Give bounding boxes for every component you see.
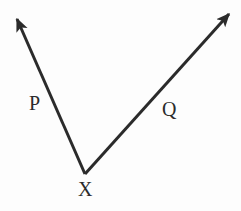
ray-label-p: P — [29, 93, 40, 113]
ray-q-line — [85, 14, 229, 174]
ray-label-q: Q — [162, 99, 176, 119]
vertex-label-x: X — [78, 179, 92, 199]
ray-p-line — [17, 19, 85, 174]
geometry-figure: P Q X — [0, 0, 241, 211]
